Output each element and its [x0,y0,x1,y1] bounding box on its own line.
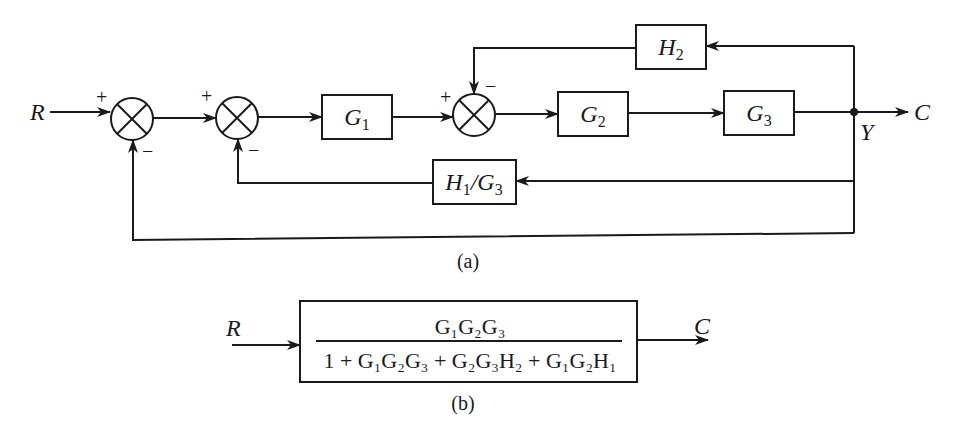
block-g1: G1 [322,95,392,139]
transfer-numerator: G₁G₂G₃ [435,314,506,339]
block-symbol: G [477,169,494,195]
block-subscript: 2 [598,113,606,130]
block-g3: G3 [724,91,794,135]
caption-b: (b) [451,392,474,415]
block-symbol: G [580,101,597,127]
feedback-line-h1g3-to-sum2 [238,139,433,183]
block-subscript: 3 [764,112,772,129]
block-symbol: G [344,104,361,130]
diagram-b: R G₁G₂G₃ 1 + G₁G₂G₃ + G₂G₃H₂ + G₁G₂H₁ C … [225,301,711,415]
block-symbol: H [444,169,464,195]
output-label-c: C [694,313,711,339]
block-diagram-canvas: R + − + − G1 [0,0,958,432]
block-g2: G2 [558,92,628,136]
block-subscript: 1 [362,116,370,133]
plus-sign: + [201,85,212,107]
svg-text:H1/G3: H1/G3 [444,169,502,198]
input-label-r: R [29,99,45,125]
minus-sign: − [142,140,153,162]
minus-sign: − [248,139,259,161]
feedback-line-h2-to-sum3 [474,48,636,94]
input-label-r: R [225,315,241,341]
block-symbol: G [746,100,763,126]
summing-junction-2: + − [201,85,259,161]
summing-junction-3: + − [440,75,496,136]
plus-sign: + [440,86,451,108]
node-label-y: Y [860,119,876,145]
block-h1-over-g3: H1/G3 [433,160,516,204]
block-subscript: 1 [463,181,471,198]
block-h2: H2 [636,25,706,69]
block-subscript: 3 [495,181,503,198]
output-label-c: C [914,99,931,125]
block-subscript: 2 [676,46,684,63]
caption-a: (a) [457,250,479,273]
plus-sign: + [96,86,107,108]
minus-sign: − [485,75,496,97]
closed-loop-transfer-block: G₁G₂G₃ 1 + G₁G₂G₃ + G₂G₃H₂ + G₁G₂H₁ [300,301,637,382]
diagram-a: R + − + − G1 [29,25,931,273]
transfer-denominator: 1 + G₁G₂G₃ + G₂G₃H₂ + G₁G₂H₁ [323,348,616,373]
summing-junction-1: + − [96,86,153,162]
block-symbol: H [657,34,677,60]
